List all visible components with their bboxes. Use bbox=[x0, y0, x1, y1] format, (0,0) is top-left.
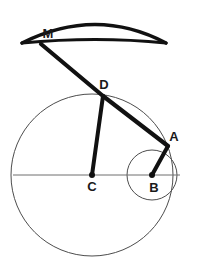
vertex-dot-c bbox=[89, 172, 95, 178]
label-a: A bbox=[169, 129, 179, 144]
vertex-dot-b bbox=[149, 172, 155, 178]
geometry-figure: M D A B C bbox=[0, 0, 197, 269]
label-c: C bbox=[87, 179, 97, 194]
label-b: B bbox=[149, 180, 158, 195]
geometry-canvas: M D A B C bbox=[0, 0, 197, 269]
label-m: M bbox=[43, 26, 54, 41]
label-d: D bbox=[99, 77, 108, 92]
